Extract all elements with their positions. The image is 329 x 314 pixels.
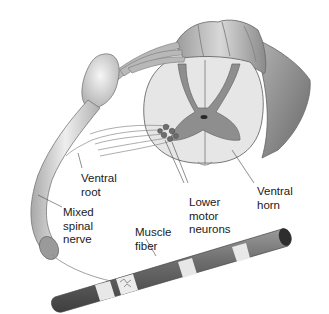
label-ventral-horn: Ventral horn: [257, 185, 293, 212]
label-lower-motor-neurons: Lower motor neurons: [189, 196, 231, 237]
label-muscle-fiber: Muscle fiber: [135, 226, 171, 253]
label-mixed-spinal-nerve: Mixed spinal nerve: [63, 206, 94, 247]
spinal-cord: [144, 20, 310, 165]
motor-axon: [52, 255, 122, 283]
spinal-cord-illustration: [0, 0, 329, 314]
central-canal: [201, 115, 208, 119]
label-ventral-root: Ventral root: [81, 172, 117, 199]
